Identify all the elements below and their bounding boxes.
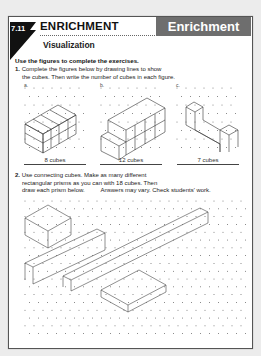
- figure-b-prism: [101, 98, 165, 160]
- figure-c-answer: 7 cubes: [177, 157, 239, 165]
- exercise-2-answer-note: Answers may vary. Check students' work.: [86, 187, 210, 193]
- figure-b-answer: 12 cubes: [100, 157, 162, 165]
- figure-a-prism: [25, 105, 76, 153]
- exercise-2-text: 2. Use connecting cubes. Make as many di…: [15, 172, 211, 195]
- exercise-2-line2: rectangular prisms as you can with 18 cu…: [15, 180, 157, 186]
- figure-c-prism: [186, 102, 238, 152]
- exercise-2-number: 2.: [15, 172, 20, 178]
- exercise-2-line3: draw each prism below.: [15, 187, 85, 193]
- exercise-2-prisms: [25, 205, 208, 312]
- figure-a-answer: 8 cubes: [24, 157, 86, 165]
- exercise-2-line1: Use connecting cubes. Make as many diffe…: [22, 172, 147, 178]
